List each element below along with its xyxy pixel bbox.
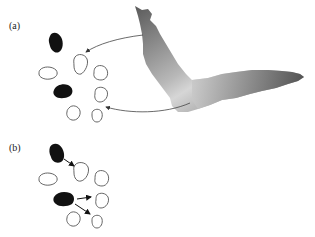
dark-cell xyxy=(53,192,74,206)
outline-cell xyxy=(74,55,88,75)
outline-cell xyxy=(39,67,57,79)
dark-cell xyxy=(49,33,63,53)
signal-arrow xyxy=(86,35,143,52)
dark-cell xyxy=(49,144,64,163)
signal-arrow xyxy=(64,159,74,166)
outline-cell xyxy=(92,215,102,228)
outline-cell xyxy=(95,171,109,186)
panel-b xyxy=(39,144,109,228)
signal-arrow xyxy=(77,197,91,199)
diagram-canvas xyxy=(0,0,315,237)
outline-cell xyxy=(95,87,108,102)
outline-cell xyxy=(94,66,108,80)
dark-cell xyxy=(53,84,72,98)
outline-cell xyxy=(67,106,80,120)
outline-cell xyxy=(92,109,102,122)
outline-cell xyxy=(96,193,109,208)
outline-cell xyxy=(67,212,80,226)
outline-cell xyxy=(39,173,57,185)
outline-cell xyxy=(74,163,89,182)
gray-source-shape xyxy=(135,6,304,112)
